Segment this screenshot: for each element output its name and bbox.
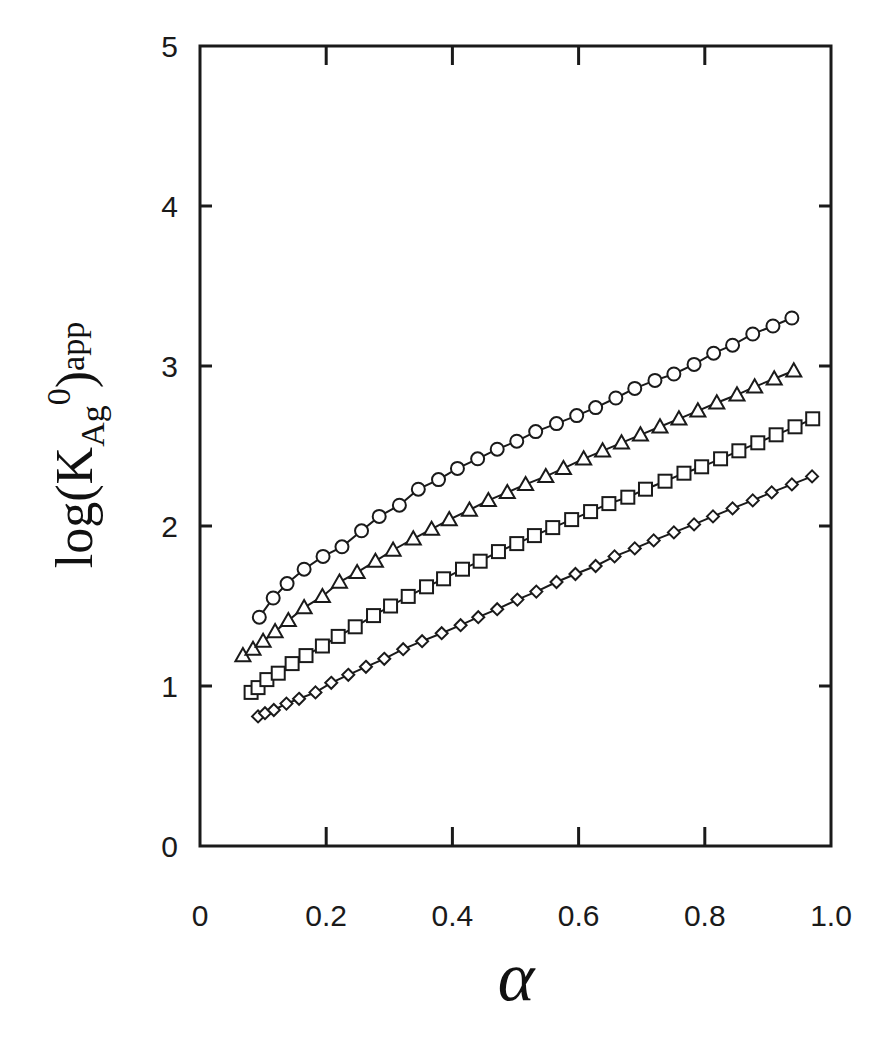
diamond-marker [569,568,581,580]
square-marker [806,412,819,425]
triangle-marker [786,363,801,376]
series-circles [253,312,799,624]
circle-marker [432,473,445,486]
y-tick-label: 1 [161,670,178,703]
data-series [235,312,819,723]
square-marker [367,609,380,622]
circle-marker [281,577,294,590]
circle-marker [267,592,280,605]
square-marker [510,537,523,550]
y-tick-label: 5 [161,30,178,63]
square-marker [584,505,597,518]
circle-marker [412,483,425,496]
diamond-marker [806,470,818,482]
square-marker [621,491,634,504]
circle-marker [298,563,311,576]
square-marker [316,640,329,653]
circle-marker [393,499,406,512]
square-marker [437,572,450,585]
diamond-marker [688,518,700,530]
square-marker [732,444,745,457]
x-tick-label: 0 [192,899,209,932]
triangle-marker [556,461,571,474]
triangle-marker [297,600,312,613]
square-marker [420,580,433,593]
triangle-marker [406,531,421,544]
triangle-marker [500,485,515,498]
circle-marker [707,347,720,360]
diamond-marker [472,611,484,623]
svg-text:log(KAg0)app: log(KAg0)app [40,322,111,568]
x-tick-label: 0.2 [305,899,347,932]
y-label-suffix: ) [46,371,104,388]
y-tick-label: 3 [161,350,178,383]
x-tick-label: 1.0 [810,899,852,932]
triangle-marker [614,435,629,448]
diamond-marker [551,576,563,588]
square-marker [384,600,397,613]
x-tick-label: 0.8 [684,899,726,932]
square-marker [528,529,541,542]
square-marker [565,513,578,526]
diamond-marker [590,560,602,572]
triangle-marker [518,477,533,490]
diamond-marker [416,635,428,647]
square-marker [639,483,652,496]
triangle-marker [442,512,457,525]
diamond-marker [766,486,778,498]
series-squares [245,412,820,699]
square-marker [751,436,764,449]
triangle-marker [462,503,477,516]
diamond-marker [455,619,467,631]
circle-marker [317,550,330,563]
y-label-outer-sub: app [54,322,91,371]
triangle-marker [595,443,610,456]
diamond-marker [648,534,660,546]
diamond-marker [491,603,503,615]
diamond-marker [727,502,739,514]
square-marker [332,630,345,643]
triangle-marker [332,575,347,588]
square-marker [695,460,708,473]
circle-marker [335,540,348,553]
chart: 00.20.40.60.81.0 012345 α log(KAg0)app [0,0,895,1045]
square-marker [789,420,802,433]
circle-marker [648,374,661,387]
series-diamonds [252,470,818,722]
circle-marker [766,320,779,333]
square-marker [770,428,783,441]
circle-marker [667,368,680,381]
triangle-marker [729,387,744,400]
x-axis-label: α [498,938,536,1015]
y-label-sup: 0 [40,388,77,405]
diamond-marker [530,586,542,598]
triangle-marker [652,419,667,432]
diamond-marker [629,542,641,554]
triangle-marker [350,565,365,578]
diamond-marker [293,693,305,705]
circle-marker [726,339,739,352]
circle-marker [253,611,266,624]
circle-marker [628,382,641,395]
square-marker [456,563,469,576]
diamond-marker [609,550,621,562]
series-triangles [235,363,801,661]
circle-marker [471,452,484,465]
diamond-marker [360,661,372,673]
square-marker [286,657,299,670]
triangle-marker [386,543,401,556]
y-axis-label: log(KAg0)app [40,322,111,568]
diamond-marker [309,686,321,698]
triangle-marker [481,493,496,506]
triangle-marker [690,403,705,416]
diamond-marker [436,627,448,639]
circle-marker [550,417,563,430]
triangle-marker [368,554,383,567]
circle-marker [609,392,622,405]
circle-marker [373,510,386,523]
circle-marker [451,462,464,475]
x-tick-label: 0.4 [432,899,474,932]
square-marker [474,555,487,568]
y-label-prefix: log(K [46,446,104,568]
diamond-marker [397,643,409,655]
